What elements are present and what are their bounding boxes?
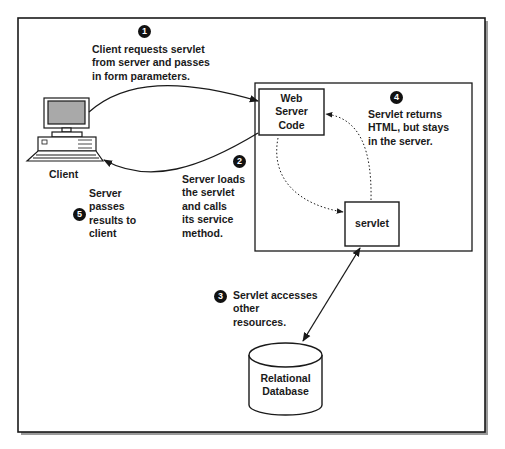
text-line: Server (89, 187, 136, 200)
servlet-label: servlet (345, 217, 399, 230)
text-line: client (89, 227, 136, 240)
text-line: its service (182, 213, 245, 226)
label-line: Database (249, 385, 322, 398)
database-label: Relational Database (249, 372, 322, 399)
text-line: in form parameters. (92, 70, 210, 83)
servlet-flow-diagram: Web Server Code servlet Relational Datab… (0, 0, 505, 449)
step-1-text: Client requests servlet from server and … (92, 43, 210, 83)
step-2-badge: 2 (233, 155, 246, 168)
text-line: in the server. (368, 135, 449, 148)
text-line: HTML, but stays (368, 121, 449, 134)
text-line: the servlet (182, 186, 245, 199)
text-line: Server loads (182, 173, 245, 186)
text-line: other (233, 302, 318, 315)
step-3-text: Servlet accesses other resources. (233, 289, 318, 329)
text-line: and calls (182, 200, 245, 213)
label-line: Code (259, 119, 324, 132)
label-line: Server (259, 105, 324, 118)
step-3-badge: 3 (214, 290, 227, 303)
text-line: Servlet accesses (233, 289, 318, 302)
text-line: passes (89, 200, 136, 213)
step-4-text: Servlet returns HTML, but stays in the s… (368, 108, 449, 148)
text-line: Servlet returns (368, 108, 449, 121)
text-line: method. (182, 227, 245, 240)
client-label: Client (49, 168, 78, 181)
label-line: Web (259, 92, 324, 105)
step-5-text: Server passes results to client (89, 187, 136, 241)
text-line: results to (89, 214, 136, 227)
text-line: from server and passes (92, 56, 210, 69)
step-1-badge: 1 (138, 25, 151, 38)
step-4-badge: 4 (390, 91, 403, 104)
text-line: Client requests servlet (92, 43, 210, 56)
step-2-text: Server loads the servlet and calls its s… (182, 173, 245, 240)
text-line: resources. (233, 316, 318, 329)
web-server-code-label: Web Server Code (259, 92, 324, 132)
step-5-badge: 5 (73, 208, 86, 221)
label-line: Relational (249, 372, 322, 385)
